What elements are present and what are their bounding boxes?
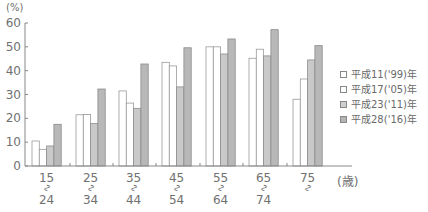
bar xyxy=(293,99,300,166)
bar xyxy=(126,103,133,166)
bar xyxy=(271,30,278,166)
legend-item-2005: 平成17('05)年 xyxy=(340,82,417,97)
y-tick-label: 60 xyxy=(6,16,21,30)
legend-swatch-icon xyxy=(340,116,347,123)
bar xyxy=(39,149,46,166)
x-tick-range-mark: ∿ xyxy=(259,184,270,192)
legend-swatch-icon xyxy=(340,101,347,108)
y-tick-label: 10 xyxy=(6,135,21,149)
bar xyxy=(134,108,141,166)
legend-label: 平成17('05)年 xyxy=(351,82,417,97)
x-tick-range-mark: ∿ xyxy=(86,184,97,192)
bar xyxy=(162,62,169,166)
bar xyxy=(119,91,126,166)
y-tick-label: 20 xyxy=(6,111,21,125)
bar xyxy=(300,79,307,166)
bar xyxy=(169,66,176,166)
x-tick-label: 64 xyxy=(213,193,228,207)
bar xyxy=(221,54,228,166)
legend-item-2011: 平成23('11)年 xyxy=(340,97,417,112)
legend-label: 平成28('16)年 xyxy=(351,112,417,127)
bar xyxy=(83,115,90,166)
bar xyxy=(32,141,39,166)
bar xyxy=(76,115,83,166)
y-tick-label: 0 xyxy=(13,159,21,173)
bar xyxy=(228,39,235,166)
x-tick-range-mark: ∿ xyxy=(172,184,183,192)
x-tick-range-mark: ∿ xyxy=(129,184,140,192)
y-tick-label: 50 xyxy=(6,40,21,54)
legend-item-1999: 平成11('99)年 xyxy=(340,67,417,82)
x-axis: 15∿2425∿3435∿4445∿5455∿6465∿7475∿ xyxy=(25,163,352,207)
bar xyxy=(308,60,315,166)
bar xyxy=(264,56,271,166)
bar xyxy=(47,146,54,166)
legend-label: 平成11('99)年 xyxy=(351,67,417,82)
bar xyxy=(256,49,263,166)
x-tick-label: 24 xyxy=(39,193,54,207)
x-tick-range-mark: ∿ xyxy=(42,184,53,192)
bar xyxy=(184,48,191,166)
x-tick-range-mark: ∿ xyxy=(303,184,314,192)
bar xyxy=(206,47,213,166)
bar xyxy=(177,87,184,166)
bar xyxy=(141,64,148,166)
bar xyxy=(213,47,220,166)
y-tick-label: 40 xyxy=(6,64,21,78)
legend: 平成11('99)年 平成17('05)年 平成23('11)年 平成28('1… xyxy=(340,67,417,127)
legend-swatch-icon xyxy=(340,86,347,93)
y-axis-unit: (%) xyxy=(6,2,23,13)
y-axis: 0102030405060 xyxy=(6,16,28,173)
bar xyxy=(249,58,256,166)
bar xyxy=(315,46,322,166)
bar xyxy=(54,124,61,166)
x-tick-label: 74 xyxy=(256,193,271,207)
legend-swatch-icon xyxy=(340,71,347,78)
legend-label: 平成23('11)年 xyxy=(351,97,417,112)
bar xyxy=(98,89,105,166)
x-tick-label: 34 xyxy=(83,193,98,207)
bars-area xyxy=(32,30,322,166)
legend-item-2016: 平成28('16)年 xyxy=(340,112,417,127)
x-tick-range-mark: ∿ xyxy=(216,184,227,192)
x-tick-label: 44 xyxy=(126,193,141,207)
x-axis-unit: (歳) xyxy=(337,175,358,189)
bar xyxy=(91,124,98,166)
x-tick-label: 54 xyxy=(169,193,184,207)
y-tick-label: 30 xyxy=(6,88,21,102)
